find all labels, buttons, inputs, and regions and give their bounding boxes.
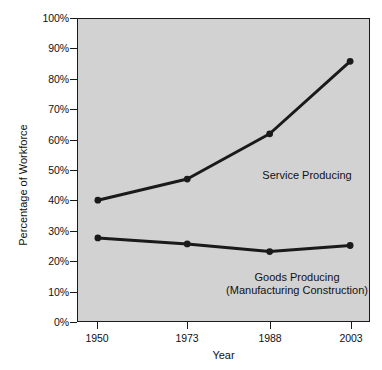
series-label-goods-line2: (Manufacturing Construction) — [226, 284, 368, 297]
data-point-marker — [184, 241, 191, 248]
y-axis-tick-label: 70% — [48, 103, 69, 115]
x-axis-tick-label: 1988 — [259, 332, 282, 344]
data-point-marker — [184, 176, 191, 183]
y-axis-tick-mark — [70, 231, 77, 232]
data-point-marker — [347, 58, 354, 65]
data-point-marker — [94, 197, 101, 204]
series-label-goods-line1: Goods Producing — [226, 271, 368, 284]
y-axis-tick-mark — [70, 109, 77, 110]
y-axis-tick-label: 10% — [48, 286, 69, 298]
data-point-marker — [94, 235, 101, 242]
x-axis-tick-label: 2003 — [340, 332, 363, 344]
x-axis-tick-mark — [351, 322, 352, 329]
data-point-marker — [266, 248, 273, 255]
y-axis-tick-mark — [70, 261, 77, 262]
series-label-service-line1: Service Producing — [262, 169, 351, 182]
plot-area: Service Producing Goods Producing (Manuf… — [77, 18, 370, 322]
y-axis-tick-label: 80% — [48, 73, 69, 85]
series-label-service-producing: Service Producing — [262, 169, 351, 182]
x-axis-tick-mark — [97, 322, 98, 329]
x-axis-tick-mark — [187, 322, 188, 329]
y-axis-tick-mark — [70, 322, 77, 323]
series-line-goods-producing — [98, 238, 350, 252]
y-axis-title: Percentage of Workforce — [14, 0, 32, 370]
y-axis-tick-mark — [70, 170, 77, 171]
y-axis-tick-label: 90% — [48, 42, 69, 54]
x-axis-tick-label: 1950 — [86, 332, 109, 344]
data-point-marker — [347, 242, 354, 249]
y-axis-tick-label: 40% — [48, 194, 69, 206]
y-axis-tick-labels: 0%10%20%30%40%50%60%70%80%90%100% — [0, 0, 69, 370]
y-axis-tick-label: 0% — [54, 316, 69, 328]
x-axis-tick-mark — [270, 322, 271, 329]
y-axis-tick-mark — [70, 18, 77, 19]
y-axis-tick-label: 50% — [48, 164, 69, 176]
y-axis-tick-label: 20% — [48, 255, 69, 267]
y-axis-tick-mark — [70, 48, 77, 49]
series-label-goods-producing: Goods Producing (Manufacturing Construct… — [226, 271, 368, 297]
y-axis-tick-mark — [70, 79, 77, 80]
y-axis-tick-mark — [70, 140, 77, 141]
y-axis-tick-label: 60% — [48, 134, 69, 146]
x-axis-tick-label: 1973 — [176, 332, 199, 344]
y-axis-tick-mark — [70, 292, 77, 293]
x-axis-title: Year — [77, 349, 370, 361]
workforce-line-chart: 0%10%20%30%40%50%60%70%80%90%100% Percen… — [0, 0, 382, 370]
y-axis-tick-label: 30% — [48, 225, 69, 237]
data-point-marker — [266, 130, 273, 137]
y-axis-tick-label: 100% — [43, 12, 69, 24]
y-axis-tick-mark — [70, 200, 77, 201]
